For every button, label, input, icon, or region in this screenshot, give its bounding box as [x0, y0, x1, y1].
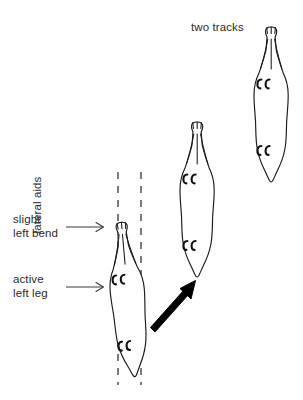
- pointer-active-left-leg: [66, 283, 104, 292]
- horse-tracks-diagram: [0, 0, 303, 400]
- horse-body-outline-start: [104, 221, 152, 378]
- horse-figure-start: [104, 221, 152, 378]
- diagram-canvas: two tracks lateral aids slight left bend…: [0, 0, 303, 400]
- pointer-slight-left-bend: [66, 223, 104, 232]
- horse-figure-end: [254, 27, 288, 182]
- movement-direction-arrow: [151, 281, 196, 333]
- label-slight-left-bend: slight left bend: [13, 212, 58, 240]
- label-active-left-leg: active left leg: [13, 272, 48, 300]
- horse-figure-middle: [180, 122, 214, 277]
- movement-arrow-shaft: [151, 290, 189, 332]
- label-two-tracks: two tracks: [191, 20, 244, 34]
